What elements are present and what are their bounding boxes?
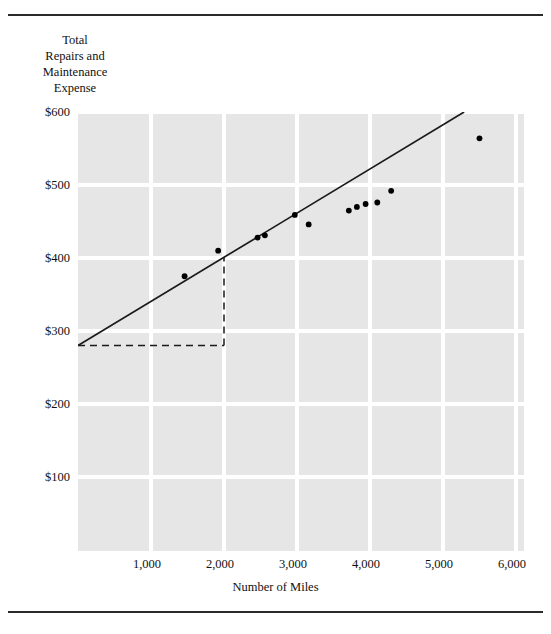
y-tick-label-200: $200 — [8, 397, 70, 412]
data-point-3 — [255, 235, 261, 241]
x-tick-label-5000: 5,000 — [404, 557, 474, 572]
data-point-11 — [388, 188, 394, 194]
bottom-divider-rule — [8, 611, 543, 613]
data-point-4 — [262, 232, 268, 238]
data-point-6 — [306, 222, 312, 228]
plot-area — [78, 112, 524, 551]
data-point-2 — [215, 248, 221, 254]
scatter-plot-svg — [78, 112, 524, 551]
x-tick-label-6000: 6,000 — [477, 557, 547, 572]
x-tick-label-4000: 4,000 — [331, 557, 401, 572]
y-tick-label-400: $400 — [8, 251, 70, 266]
y-tick-label-500: $500 — [8, 178, 70, 193]
y-tick-label-300: $300 — [8, 324, 70, 339]
top-divider-rule — [8, 14, 543, 16]
data-point-1 — [182, 273, 188, 279]
y-tick-label-100: $100 — [8, 470, 70, 485]
x-tick-label-1000: 1,000 — [112, 557, 182, 572]
x-tick-label-2000: 2,000 — [185, 557, 255, 572]
data-point-5 — [292, 212, 298, 218]
data-point-7 — [346, 208, 352, 214]
chart-title: Total Repairs and Maintenance Expense — [10, 32, 140, 96]
data-point-12 — [477, 135, 483, 141]
x-tick-label-3000: 3,000 — [258, 557, 328, 572]
data-point-9 — [363, 201, 369, 207]
data-point-8 — [354, 204, 360, 210]
x-axis-title: Number of Miles — [0, 580, 551, 595]
y-tick-label-600: $600 — [8, 105, 70, 120]
data-point-10 — [374, 200, 380, 206]
